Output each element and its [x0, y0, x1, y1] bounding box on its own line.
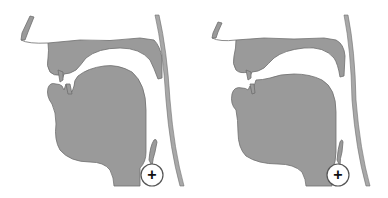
diagram-figure: Vocal tract diagram 1 + Vo: [0, 0, 388, 198]
upper-teeth: [246, 70, 251, 80]
pharyngeal-wall: [344, 15, 370, 186]
vocal-tract-svg: +: [0, 0, 194, 198]
pharyngeal-wall: [155, 15, 184, 186]
svg-text:+: +: [147, 166, 156, 183]
upper-teeth: [58, 70, 63, 82]
tongue-jaw: [232, 74, 337, 186]
nostril-line: [21, 40, 48, 43]
vocal-tract-panel-right: Vocal tract diagram 2 +: [194, 0, 388, 198]
upper-palate-velum: [233, 38, 345, 77]
nose-shape: [212, 22, 222, 38]
vocal-tract-svg: +: [194, 0, 388, 198]
epiglottis: [337, 140, 343, 166]
tongue-jaw: [48, 66, 147, 186]
glottis-voiced-symbol: +: [327, 164, 349, 186]
vocal-tract-panel-left: Vocal tract diagram 1 +: [0, 0, 194, 198]
epiglottis: [149, 139, 157, 166]
nose-shape: [21, 16, 34, 40]
glottis-voiced-symbol: +: [141, 164, 163, 186]
svg-text:+: +: [333, 166, 342, 183]
